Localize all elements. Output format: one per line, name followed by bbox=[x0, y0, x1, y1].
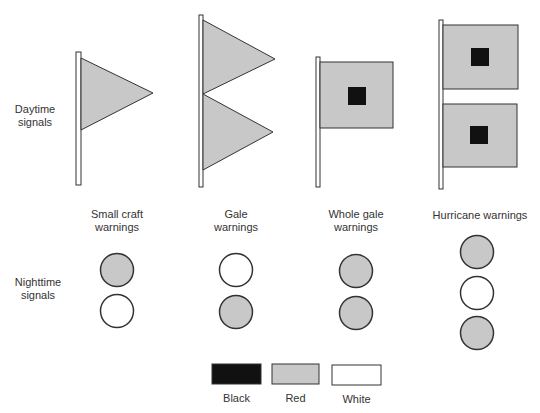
category-label-whole-gale: Whole gale warnings bbox=[316, 208, 396, 234]
legend-swatch-black bbox=[212, 364, 261, 384]
nighttime-signals-label: Nighttime signals bbox=[10, 276, 66, 302]
legend-swatch-white bbox=[332, 365, 381, 385]
gale-day-signal bbox=[199, 15, 275, 187]
category-label-gale: Gale warnings bbox=[196, 208, 276, 234]
category-label-small-craft: Small craft warnings bbox=[72, 208, 162, 234]
legend bbox=[212, 364, 381, 385]
legend-label-white: White bbox=[332, 393, 381, 406]
whole-gale-night-signal bbox=[340, 255, 373, 330]
category-label-hurricane: Hurricane warnings bbox=[425, 209, 535, 222]
small-craft-night-signal bbox=[101, 254, 134, 328]
legend-label-black: Black bbox=[212, 392, 261, 405]
gale-night-signal bbox=[220, 254, 253, 329]
whole-gale-day-signal bbox=[316, 57, 393, 187]
legend-label-red: Red bbox=[272, 392, 319, 405]
signal-diagram bbox=[0, 0, 540, 413]
legend-swatch-red bbox=[272, 364, 319, 384]
hurricane-night-signal bbox=[461, 236, 494, 350]
hurricane-day-signal bbox=[439, 20, 518, 189]
small-craft-day-signal bbox=[76, 52, 153, 185]
daytime-signals-label: Daytime signals bbox=[10, 103, 60, 129]
